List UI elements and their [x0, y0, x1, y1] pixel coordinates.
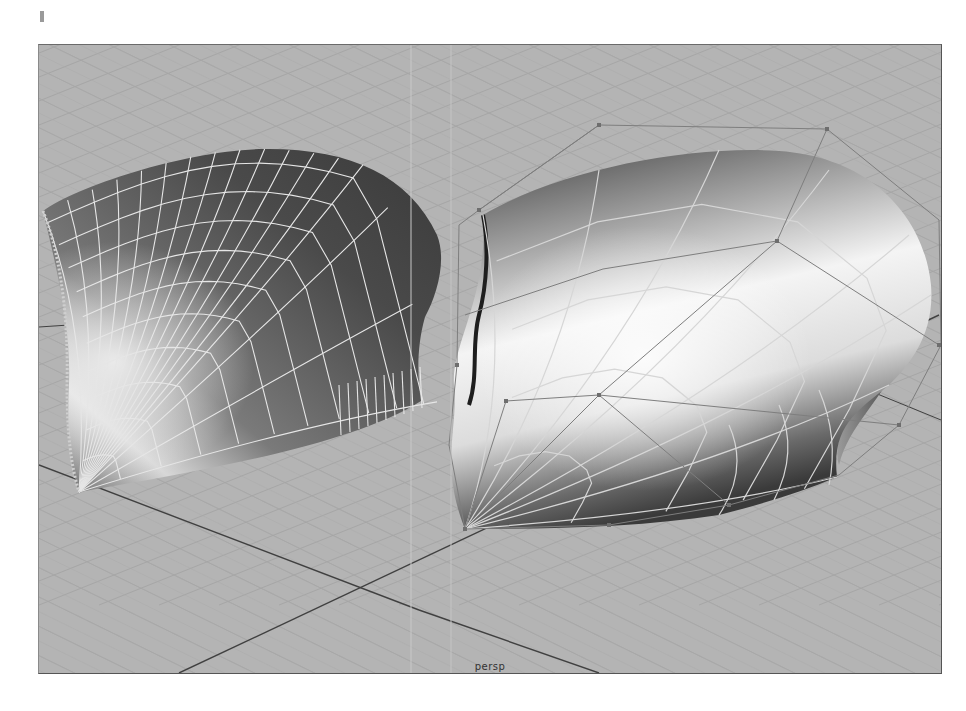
control-vertex[interactable] — [455, 363, 459, 367]
control-vertex[interactable] — [775, 239, 779, 243]
grid-subline — [909, 45, 941, 673]
control-vertex[interactable] — [825, 127, 829, 131]
viewport-scene[interactable] — [39, 45, 941, 673]
grid-subline — [939, 45, 941, 673]
right-nurbs-surface[interactable] — [449, 123, 941, 531]
control-vertex[interactable] — [607, 523, 611, 527]
control-vertex[interactable] — [727, 503, 731, 507]
control-vertex[interactable] — [937, 343, 941, 347]
window-marker — [40, 11, 44, 22]
camera-label: persp — [39, 661, 941, 673]
grid-line — [939, 45, 941, 673]
control-vertex[interactable] — [463, 527, 467, 531]
control-vertex[interactable] — [477, 208, 481, 212]
left-nurbs-surface[interactable] — [43, 149, 441, 492]
control-vertex[interactable] — [504, 399, 508, 403]
control-vertex[interactable] — [597, 123, 601, 127]
perspective-viewport[interactable]: persp — [38, 44, 942, 674]
control-vertex[interactable] — [597, 393, 601, 397]
control-vertex[interactable] — [897, 423, 901, 427]
